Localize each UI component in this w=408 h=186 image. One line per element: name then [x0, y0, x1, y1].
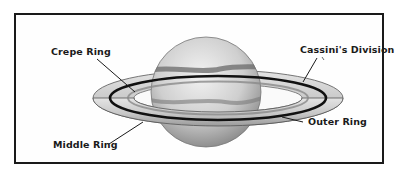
- saturn-illustration: [0, 0, 408, 186]
- label-middle-ring: Middle Ring: [53, 139, 118, 150]
- planet-saturn: [150, 37, 262, 147]
- cassini-division-pointer: [303, 58, 317, 82]
- stray-mark: [322, 57, 324, 60]
- label-cassini-division: Cassini's Division: [300, 44, 394, 55]
- label-outer-ring: Outer Ring: [308, 116, 367, 127]
- label-crepe-ring: Crepe Ring: [51, 46, 111, 57]
